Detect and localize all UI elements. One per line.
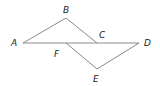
segment-ab	[23, 18, 66, 43]
label-a: A	[10, 38, 17, 48]
geometry-diagram: A B C D F E	[0, 0, 160, 86]
label-e: E	[93, 74, 99, 84]
label-d: D	[144, 38, 151, 48]
segment-fe	[66, 43, 97, 69]
label-f: F	[54, 49, 60, 59]
segment-bc	[66, 18, 97, 43]
label-c: C	[99, 30, 106, 40]
label-b: B	[63, 5, 69, 15]
segment-ed	[97, 43, 139, 69]
